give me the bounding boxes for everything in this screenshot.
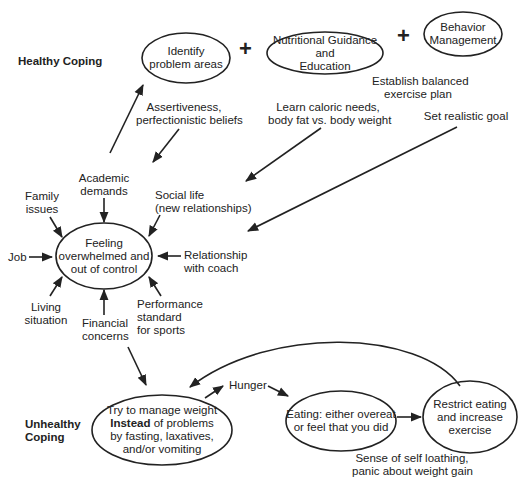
exercise-plan-label: Establish balanced exercise plan bbox=[372, 75, 464, 101]
relationship-with-coach-label: Relationship with coach bbox=[184, 249, 247, 275]
living-situation-label: Living situation bbox=[24, 301, 68, 327]
job-label: Job bbox=[8, 251, 27, 264]
self-loathing-label: Sense of self loathing, panic about weig… bbox=[352, 452, 472, 478]
caloric-needs-label: Learn caloric needs, body fat vs. body w… bbox=[268, 101, 388, 127]
social-life-label: Social life (new relationships) bbox=[155, 189, 252, 215]
eating-node: Eating: either overeator feel that you d… bbox=[286, 391, 396, 451]
assertiveness-label: Assertiveness, perfectionistic beliefs bbox=[136, 101, 232, 127]
plus-sign: + bbox=[397, 25, 410, 47]
unhealthy-coping-label: Unhealthy Coping bbox=[25, 418, 81, 444]
feeling-overwhelmed-node: Feelingoverwhelmed andout of control bbox=[56, 223, 152, 289]
nutritional-guidance-node: Nutritional GuidanceandEducation bbox=[267, 32, 383, 74]
plus-sign: + bbox=[239, 38, 252, 60]
realistic-goal-label: Set realistic goal bbox=[422, 110, 510, 123]
restrict-eating-node: Restrict eatingand increaseexercise bbox=[423, 381, 517, 453]
identify-problem-areas-node: Identifyproblem areas bbox=[142, 33, 230, 83]
hunger-label: Hunger bbox=[229, 379, 267, 392]
financial-concerns-label: Financial concerns bbox=[82, 317, 128, 343]
academic-demands-label: Academic demands bbox=[77, 172, 131, 198]
manage-weight-node: Try to manage weight Instead of problems… bbox=[92, 395, 232, 465]
behavior-management-node: BehaviorManagement bbox=[424, 12, 502, 56]
performance-standard-label: Performance standard for sports bbox=[137, 298, 203, 337]
healthy-coping-label: Healthy Coping bbox=[18, 55, 102, 68]
family-issues-label: Family issues bbox=[22, 190, 62, 216]
